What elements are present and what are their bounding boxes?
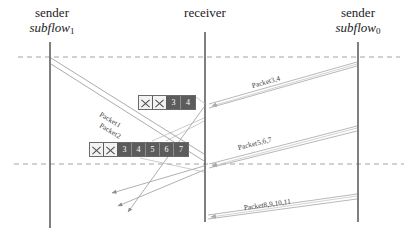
connector-block-b-c [140, 158, 204, 172]
header-sender-subflow1-line1: sender [10, 5, 94, 20]
connector-block-a-a [196, 97, 205, 104]
packet-cell-crossed [104, 143, 118, 156]
arrow-packet3-4 [209, 62, 357, 108]
header-sender-subflow1: sender subflow1 [10, 5, 94, 39]
packet-cell-crossed [90, 143, 104, 156]
timelines [50, 32, 358, 228]
arrow-packet5-6-7 [209, 126, 357, 168]
header-sender-subflow1-line2: subflow1 [10, 20, 94, 39]
arrow-packet5-6-7-edge-bottom [209, 131, 357, 168]
arrow-packet3-4-edge-bottom [209, 66, 357, 108]
header-sender-subflow0: sender subflow0 [316, 5, 400, 39]
header-receiver-line1: receiver [163, 5, 247, 20]
arrow-feedback-3 [118, 170, 204, 206]
packet-cell-crossed [139, 96, 153, 109]
packet-cell: 4 [181, 96, 195, 109]
packet-block-a: 3 4 [138, 95, 196, 110]
header-sender-subflow0-line1: sender [316, 5, 400, 20]
connector-block-b-b [166, 121, 204, 141]
packet-cell-crossed [153, 96, 167, 109]
header-sender-subflow0-line2: subflow0 [316, 20, 400, 39]
mptcp-sequence-diagram: sender subflow1 receiver sender subflow0… [0, 0, 412, 234]
arrow-packet5-6-7-head [212, 128, 357, 166]
arrow-packet3-4-edge-top [209, 62, 357, 104]
packet-cell: 3 [167, 96, 181, 109]
arrows-receiver-feedback [112, 107, 204, 212]
packet-cell: 5 [146, 143, 160, 156]
arrow-packet3-4-head [212, 64, 357, 106]
dashed-reference-lines [14, 57, 404, 164]
header-sender-subflow1-subscript: 1 [70, 26, 75, 36]
packet-cell: 4 [132, 143, 146, 156]
packet-block-b: 3 4 5 6 7 [89, 142, 189, 157]
packet-cell: 6 [160, 143, 174, 156]
arrow-packet5-6-7-edge-top [209, 126, 357, 164]
packet-cell: 3 [118, 143, 132, 156]
header-receiver: receiver [163, 5, 247, 20]
header-sender-subflow0-subscript: 0 [376, 26, 381, 36]
packet-cell: 7 [174, 143, 188, 156]
